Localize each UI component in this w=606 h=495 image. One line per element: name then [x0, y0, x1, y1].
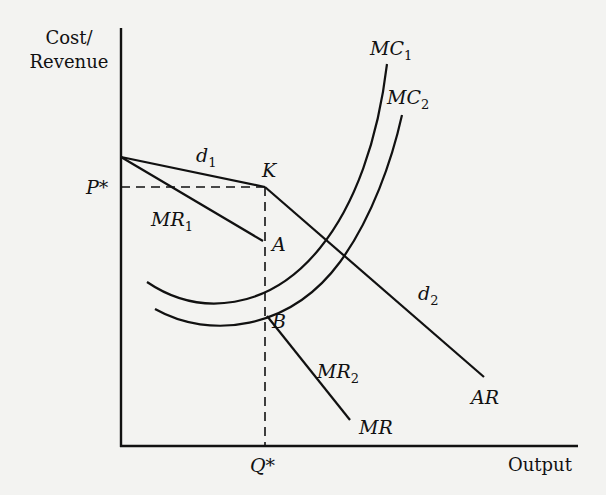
y-axis-title: Cost/ Revenue: [24, 26, 114, 74]
point-a-label: A: [272, 235, 286, 254]
q-star-label: Q*: [250, 456, 275, 475]
d1-curve: [121, 157, 265, 187]
mr1-label: MR1: [151, 210, 193, 233]
diagram-canvas: [0, 0, 606, 495]
mr-label: MR: [359, 418, 393, 437]
mc1-curve: [147, 64, 387, 303]
ar-label: AR: [471, 388, 499, 407]
d2-ar-curve: [265, 187, 484, 377]
point-k-label: K: [262, 161, 276, 180]
p-star-label: P*: [86, 178, 108, 197]
d2-label: d2: [418, 284, 438, 307]
mc1-label: MC1: [370, 39, 412, 62]
x-axis-title: Output: [508, 453, 572, 477]
kinked-demand-diagram: Cost/ Revenue Output P* Q* K A B d1 d2 M…: [0, 0, 606, 495]
d1-label: d1: [196, 146, 216, 169]
y-axis-title-line1: Cost/: [24, 26, 114, 50]
y-axis-title-line2: Revenue: [24, 50, 114, 74]
mr2-label: MR2: [317, 362, 359, 385]
point-b-label: B: [272, 312, 286, 331]
mc2-label: MC2: [387, 88, 429, 111]
